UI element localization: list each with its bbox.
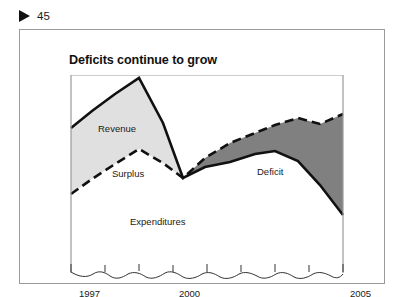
chart-svg bbox=[70, 75, 344, 285]
x-axis-label-end: 2005 bbox=[350, 288, 371, 297]
region-label-deficit: Deficit bbox=[257, 166, 283, 177]
figure-callout: 45 bbox=[19, 10, 50, 22]
x-axis-label-start: 1997 bbox=[79, 288, 100, 297]
chart-title: Deficits continue to grow bbox=[69, 53, 217, 67]
x-axis-sketch-line bbox=[71, 272, 343, 279]
triangle-right-icon bbox=[19, 10, 30, 22]
region-label-surplus: Surplus bbox=[112, 168, 144, 179]
x-axis-label-middle: 2000 bbox=[179, 288, 200, 297]
figure-number: 45 bbox=[37, 10, 50, 22]
x-axis-ticks bbox=[71, 264, 343, 272]
series-label-expenditures: Expenditures bbox=[130, 216, 185, 227]
series-label-revenue: Revenue bbox=[98, 123, 136, 134]
chart-plot-area bbox=[70, 75, 344, 255]
figure-container: Deficits continue to grow bbox=[19, 29, 385, 284]
